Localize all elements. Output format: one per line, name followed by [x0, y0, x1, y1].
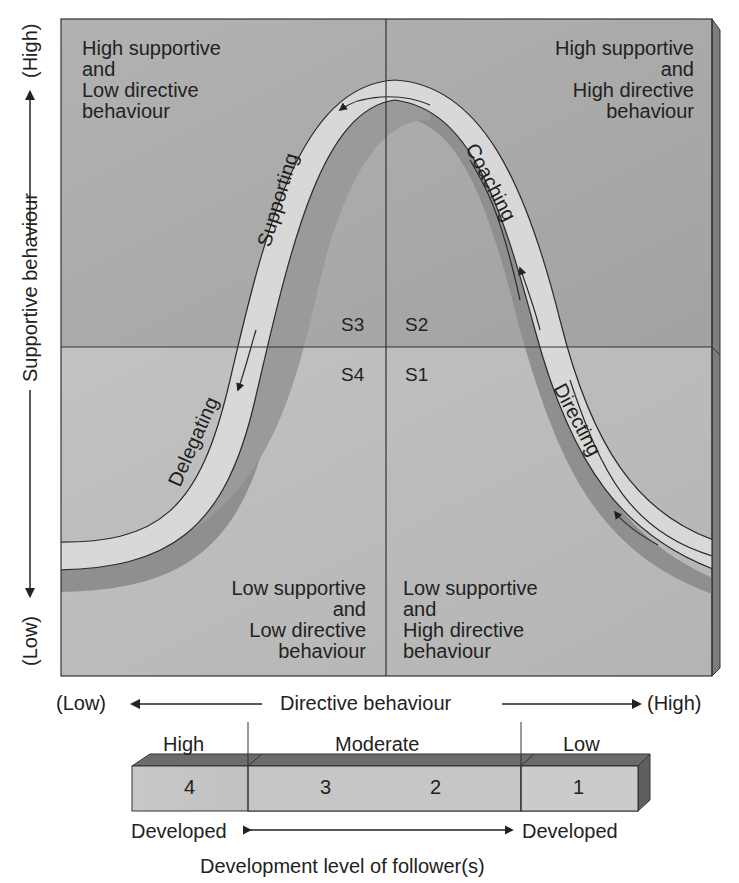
y-axis-low-label: (Low) [19, 616, 42, 666]
dev-group-high: High [163, 733, 204, 756]
dev-cell-4: 4 [184, 776, 195, 799]
x-axis-label: Directive behaviour [280, 692, 451, 715]
x-axis-low-label: (Low) [56, 692, 106, 715]
style-label-s3: S3 [341, 314, 364, 336]
quadrant-bottom-left-text: Low supportive and Low directive behavio… [231, 578, 366, 662]
style-label-s2: S2 [405, 314, 428, 336]
dev-right-caption: Developed [522, 820, 618, 843]
quadrant-bottom-right-text: Low supportive and High directive behavi… [403, 578, 538, 662]
dev-title: Development level of follower(s) [200, 855, 485, 878]
dev-group-moderate: Moderate [335, 733, 420, 756]
dev-group-low: Low [563, 733, 600, 756]
style-label-s4: S4 [341, 364, 364, 386]
dev-left-caption: Developed [131, 820, 227, 843]
dev-cell-3: 3 [320, 776, 331, 799]
quadrant-top-left-text: High supportive and Low directive behavi… [82, 38, 221, 122]
style-label-s1: S1 [405, 364, 428, 386]
x-axis-high-label: (High) [647, 692, 701, 715]
y-axis-label: Supportive behaviour [19, 193, 42, 382]
dev-cell-2: 2 [430, 776, 441, 799]
quadrant-top-right-text: High supportive and High directive behav… [555, 38, 694, 122]
y-axis-high-label: (High) [19, 24, 42, 78]
dev-cell-1: 1 [573, 776, 584, 799]
